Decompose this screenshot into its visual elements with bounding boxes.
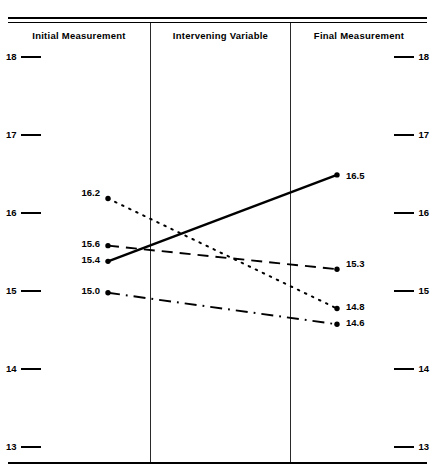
data-point-final-solid-line bbox=[334, 172, 339, 177]
point-label-initial-dashdot: 15.0 bbox=[48, 286, 100, 296]
data-point-initial-dotted-line bbox=[105, 196, 110, 201]
point-label-initial-solid: 15.4 bbox=[48, 255, 100, 265]
series-layer bbox=[108, 175, 337, 324]
series-line-dash-dot-line bbox=[108, 293, 337, 324]
point-label-initial-dashed: 15.6 bbox=[48, 239, 100, 249]
point-label-initial-dotted: 16.2 bbox=[48, 188, 100, 198]
point-label-final-dashdot: 14.6 bbox=[346, 318, 402, 328]
data-point-final-dotted-line bbox=[334, 306, 339, 311]
data-point-initial-dashed-line bbox=[105, 243, 110, 248]
data-point-final-dash-dot-line bbox=[334, 322, 339, 327]
slope-chart: Initial Measurement Intervening Variable… bbox=[0, 0, 435, 472]
series-line-dotted-line bbox=[108, 198, 337, 308]
point-label-final-dotted: 14.8 bbox=[346, 302, 402, 312]
plot-area bbox=[0, 0, 435, 472]
data-point-initial-solid-line bbox=[105, 259, 110, 264]
data-point-final-dashed-line bbox=[334, 267, 339, 272]
data-point-initial-dash-dot-line bbox=[105, 290, 110, 295]
series-line-solid-line bbox=[108, 175, 337, 261]
point-label-final-solid: 16.5 bbox=[346, 171, 402, 181]
point-label-final-dashed: 15.3 bbox=[346, 259, 402, 269]
